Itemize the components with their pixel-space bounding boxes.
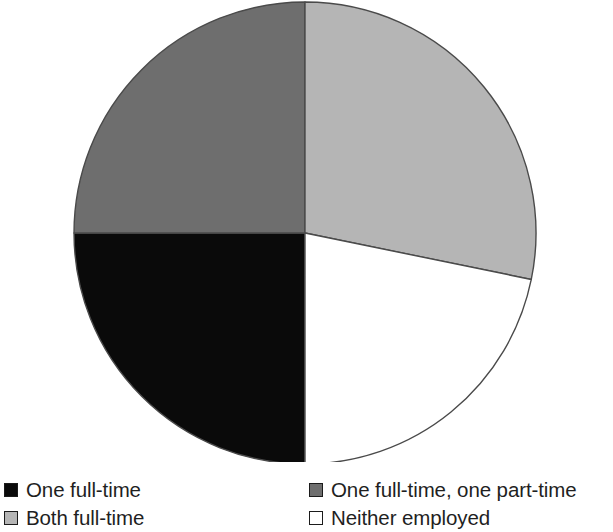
chart-legend: One full-time One full-time, one part-ti… [0,468,613,532]
legend-item-one-full-time-one-part-time[interactable]: One full-time, one part-time [309,477,577,503]
legend-item-label: Both full-time [26,507,144,529]
legend-swatch-icon [309,511,323,525]
pie-chart-plot-area [0,0,613,462]
pie-slice[interactable] [305,2,536,279]
pie-chart-svg [0,0,613,462]
legend-swatch-icon [4,483,18,497]
legend-item-both-full-time[interactable]: Both full-time [4,505,144,531]
legend-item-label: One full-time, one part-time [331,479,577,501]
legend-item-label: Neither employed [331,507,490,529]
pie-chart-figure: One full-time One full-time, one part-ti… [0,0,613,532]
legend-swatch-icon [4,511,18,525]
legend-swatch-icon [309,483,323,497]
pie-slice[interactable] [74,2,305,233]
legend-item-label: One full-time [26,479,141,501]
legend-item-neither-employed[interactable]: Neither employed [309,505,490,531]
pie-slice[interactable] [74,233,305,462]
legend-item-one-full-time[interactable]: One full-time [4,477,141,503]
